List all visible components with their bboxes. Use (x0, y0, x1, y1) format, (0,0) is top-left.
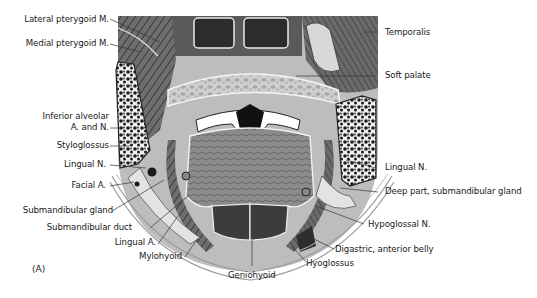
label-lingual-n-right: Lingual N. (385, 162, 427, 173)
label-lingual-n-left: Lingual N. (64, 159, 106, 170)
label-hyoglossus: Hyoglossus (306, 258, 354, 269)
label-hypoglossal-n: Hypoglossal N. (368, 219, 430, 230)
label-lingual-a: Lingual A. (115, 237, 156, 248)
label-mylohyoid: Mylohyoid (139, 251, 182, 262)
label-styloglossus: Styloglossus (57, 140, 109, 151)
label-submandibular-gland: Submandibular gland (23, 205, 113, 216)
label-digastric-anterior-belly: Digastric, anterior belly (335, 244, 434, 255)
label-inferior-alveolar-line1: Inferior alveolar (42, 111, 109, 122)
label-lateral-pterygoid: Lateral pterygoid M. (24, 14, 109, 25)
label-submandibular-duct: Submandibular duct (47, 222, 132, 233)
anatomy-figure: Lateral pterygoid M. Medial pterygoid M.… (0, 0, 537, 298)
label-deep-part-submandibular: Deep part, submandibular gland (385, 186, 522, 197)
label-facial-a: Facial A. (72, 180, 106, 191)
label-temporalis: Temporalis (385, 27, 430, 38)
label-inferior-alveolar-line2: A. and N. (71, 122, 109, 133)
label-medial-pterygoid: Medial pterygoid M. (26, 38, 109, 49)
panel-label: (A) (32, 264, 45, 274)
label-geniohyoid: Geniohyoid (228, 270, 276, 281)
label-soft-palate: Soft palate (385, 70, 431, 81)
